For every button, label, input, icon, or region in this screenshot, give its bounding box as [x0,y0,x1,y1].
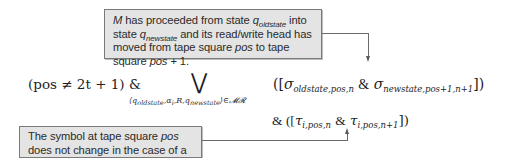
range-text: ⟩∈𝓜𝓡 [220,96,245,105]
disjunction-range: ⟨qoldstate,αi,R,qnewstate⟩∈𝓜𝓡 [129,96,245,107]
tau-subscript: i,pos,n+1 [357,120,398,130]
and-open-bracket: & ([ [272,113,295,128]
callout-head-movement: M has proceeded from state qoldstate int… [104,9,322,59]
callout-symbol-unchanged: The symbol at tape square pos does not c… [19,126,202,158]
and-operator: & [358,77,369,92]
callout-text: + 1. [167,55,189,67]
sigma-state-term: ([σoldstate,pos,n & σnewstate,pos+1,n+1]… [273,76,484,94]
callout-text: does not change in the case of a move-ri… [28,144,187,158]
close-bracket: ]) [473,76,484,92]
connector-top-horizontal [322,33,369,34]
callout-text: The symbol at tape square [28,130,161,142]
big-disjunction-operator: ⋁ [191,69,207,94]
tau-subscript: i,pos,n [302,120,331,130]
tau-symbol-term: & ([τi,pos,n & τi,pos,n+1]) [272,112,409,130]
arrow-up-icon [345,128,349,134]
connector-top-vertical [368,33,369,58]
open-bracket: ([ [273,76,284,92]
range-text: ⟨q [129,96,137,105]
range-text: ,R,q [174,96,190,105]
range-subscript: newstate [190,99,220,107]
pos-variable: pos [161,130,179,142]
pos-variable: pos [150,55,168,67]
close-bracket: ]) [399,112,410,128]
machine-symbol: M [113,14,122,26]
and-operator: & [335,113,346,128]
range-subscript: oldstate [137,99,163,107]
range-text: ,α [164,96,172,105]
callout-text: has proceeded from state [122,14,252,26]
pos-variable: pos [235,41,253,53]
sigma-symbol: σ [284,76,294,92]
sigma-subscript: newstate,pos+1,n+1 [383,84,473,94]
sigma-subscript: oldstate,pos,n [294,84,354,94]
sigma-symbol: σ [374,76,384,92]
arrow-down-icon [366,56,370,62]
connector-bottom-horizontal [202,140,348,141]
position-condition: (pos ≠ 2t + 1) & [28,76,141,92]
